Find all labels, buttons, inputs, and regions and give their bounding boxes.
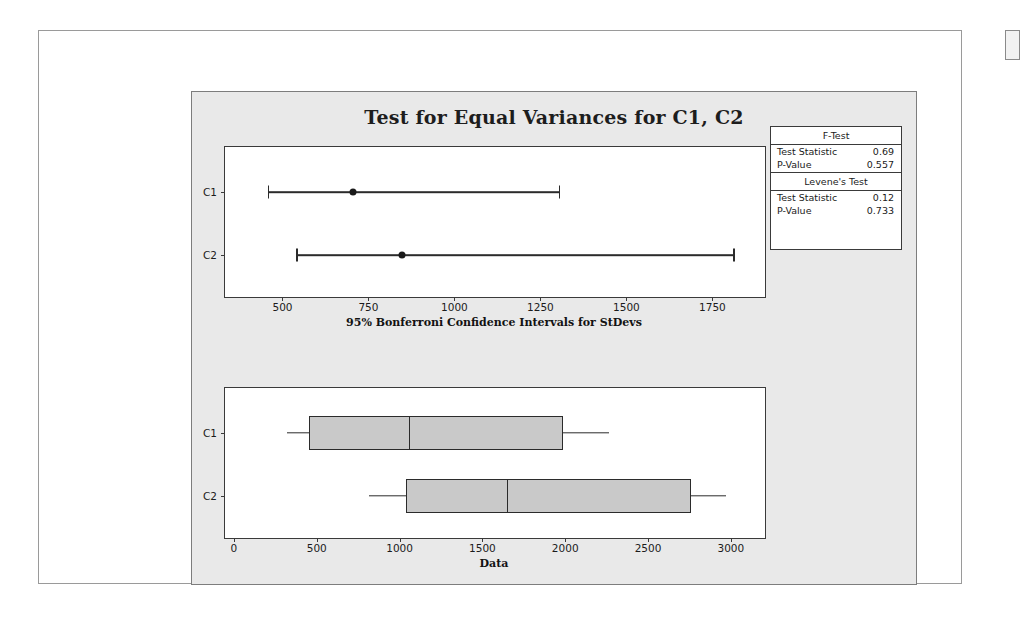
page-edge-marker: [1005, 30, 1020, 60]
ci-x-axis: 95% Bonferroni Confidence Intervals for …: [224, 297, 764, 337]
boxplot-whisker-low: [287, 432, 309, 433]
boxplot-box: [406, 479, 691, 513]
ci-axis-tick-label: 1500: [613, 301, 640, 313]
confidence-interval-plot[interactable]: C1C2: [224, 146, 766, 298]
ci-category-label: C2: [177, 249, 217, 261]
ci-axis-tick-label: 1250: [527, 301, 554, 313]
ci-axis-tick-label: 750: [358, 301, 378, 313]
ci-interval-cap: [559, 186, 561, 199]
boxplot-category-label: C1: [177, 427, 217, 439]
boxplot-x-axis: Data 050010001500200025003000: [224, 538, 764, 578]
stats-value: 0.12: [873, 192, 894, 203]
boxplot-category-tick: [221, 433, 225, 434]
stats-label: P-Value: [777, 205, 811, 216]
stats-label: Test Statistic: [777, 146, 837, 157]
boxplot-axis-tick-label: 3000: [717, 542, 744, 554]
ci-axis-tick-label: 1000: [441, 301, 468, 313]
boxplot-category-tick: [221, 496, 225, 497]
stats-row: Test Statistic 0.12: [771, 191, 901, 204]
ci-category-tick: [221, 192, 225, 193]
boxplot-axis-title: Data: [224, 557, 764, 570]
ci-interval-cap: [733, 249, 735, 262]
boxplot-whisker-high: [689, 495, 726, 496]
boxplot-box: [309, 416, 562, 450]
stats-row: Test Statistic 0.69: [771, 145, 901, 158]
boxplot-axis-tick-label: 2500: [635, 542, 662, 554]
boxplot-axis-tick-label: 500: [307, 542, 327, 554]
stats-value: 0.69: [873, 146, 894, 157]
stats-row: P-Value 0.733: [771, 204, 901, 217]
boxplot-axis-tick-label: 0: [231, 542, 238, 554]
ci-point-estimate: [349, 189, 356, 196]
boxplot-median-line: [507, 480, 508, 512]
stats-label: Test Statistic: [777, 192, 837, 203]
boxplot-category-label: C2: [177, 490, 217, 502]
ci-axis-tick-label: 1750: [699, 301, 726, 313]
stats-row: P-Value 0.557: [771, 158, 901, 171]
ci-point-estimate: [399, 252, 406, 259]
stats-value: 0.557: [867, 159, 894, 170]
screenshot-root: Test for Equal Variances for C1, C2 F-Te…: [0, 0, 1031, 632]
boxplot-whisker-high: [561, 432, 610, 433]
boxplot[interactable]: C1C2: [224, 387, 766, 539]
stats-table: F-Test Test Statistic 0.69 P-Value 0.557…: [770, 126, 902, 250]
boxplot-axis-tick-label: 1500: [469, 542, 496, 554]
stats-value: 0.733: [867, 205, 894, 216]
document-frame: Test for Equal Variances for C1, C2 F-Te…: [38, 30, 962, 584]
ci-category-tick: [221, 255, 225, 256]
ci-interval-line: [268, 191, 559, 193]
boxplot-axis-tick-label: 2000: [552, 542, 579, 554]
minitab-graph-panel[interactable]: Test for Equal Variances for C1, C2 F-Te…: [191, 91, 917, 585]
ci-axis-tick-label: 500: [272, 301, 292, 313]
ci-plot-canvas: C1C2: [225, 147, 765, 297]
stats-section-heading-ftest: F-Test: [771, 127, 901, 143]
boxplot-canvas: C1C2: [225, 388, 765, 538]
boxplot-whisker-low: [369, 495, 405, 496]
ci-category-label: C1: [177, 186, 217, 198]
graph-title: Test for Equal Variances for C1, C2: [192, 106, 916, 128]
ci-interval-cap: [296, 249, 298, 262]
stats-section-heading-levene: Levene's Test: [771, 173, 901, 189]
ci-axis-title: 95% Bonferroni Confidence Intervals for …: [224, 316, 764, 329]
stats-label: P-Value: [777, 159, 811, 170]
ci-interval-cap: [268, 186, 270, 199]
boxplot-axis-tick-label: 1000: [386, 542, 413, 554]
boxplot-median-line: [409, 417, 410, 449]
ci-interval-line: [296, 254, 733, 256]
